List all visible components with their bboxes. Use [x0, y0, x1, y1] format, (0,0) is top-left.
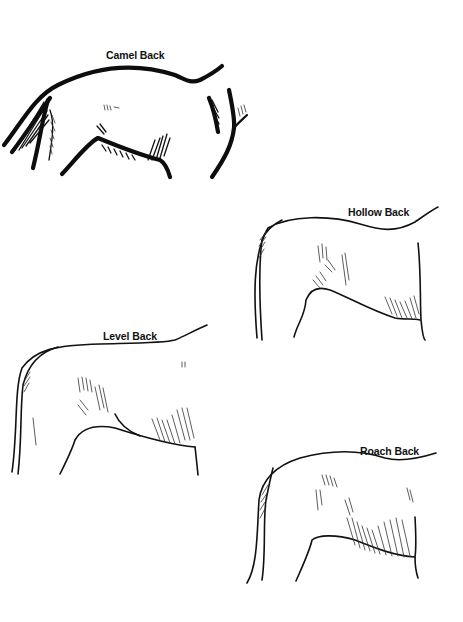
roach-back-drawing	[0, 0, 463, 622]
back-conformation-figure: Camel Back Hollow Back	[0, 0, 463, 622]
